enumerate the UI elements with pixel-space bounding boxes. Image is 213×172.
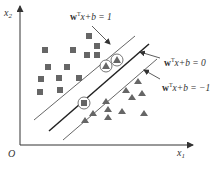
square-point xyxy=(37,89,43,95)
square-point xyxy=(70,47,76,53)
triangle-point xyxy=(81,117,89,123)
square-point xyxy=(42,47,48,53)
square-class-points xyxy=(37,33,100,95)
triangle-point xyxy=(118,108,126,114)
triangle-point xyxy=(104,106,112,112)
triangle-point xyxy=(140,110,148,116)
square-point xyxy=(84,52,90,58)
square-point xyxy=(56,75,62,81)
triangle-point xyxy=(138,90,146,96)
square-point xyxy=(64,64,70,70)
triangle-point xyxy=(89,110,97,116)
square-point xyxy=(86,33,92,39)
square-point xyxy=(94,52,100,58)
square-point xyxy=(57,87,63,93)
decision-boundary-label: wTx+b = 0 xyxy=(164,57,206,68)
callout-arrow-positive xyxy=(92,26,110,44)
triangle-support-vector xyxy=(111,54,123,66)
positive-margin-label: wTx+b = 1 xyxy=(70,11,112,22)
axes xyxy=(20,6,193,145)
triangle-point xyxy=(134,78,142,84)
negative-margin-line xyxy=(63,59,157,140)
callout-arrow-negative xyxy=(144,70,160,79)
negative-margin-label: wTx+b = −1 xyxy=(162,82,210,93)
square-point xyxy=(94,43,100,49)
square-point xyxy=(76,75,82,81)
square-point xyxy=(45,64,51,70)
x-axis-label: x1 xyxy=(176,147,185,160)
triangle-point xyxy=(128,94,136,100)
svm-diagram: x2 O x1 wTx+b = 1 wTx+b = 0 wTx+b = −1 xyxy=(0,0,213,172)
triangle-point xyxy=(104,114,112,120)
callout-arrow-boundary xyxy=(140,52,160,58)
square-point xyxy=(38,76,44,82)
square-support-vector xyxy=(78,97,90,109)
triangle-support-vector xyxy=(100,60,112,72)
origin-label: O xyxy=(8,148,15,159)
y-axis-label: x2 xyxy=(3,7,12,20)
hyperplanes xyxy=(34,36,157,140)
